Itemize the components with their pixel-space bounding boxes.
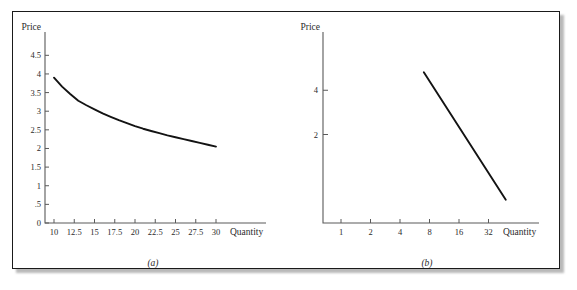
- panel-b-x-tick-label: 32: [484, 227, 493, 237]
- panel-a-plot: 1012.51517.52022.52527.530Quantity0.511.…: [13, 12, 293, 270]
- panel-a-x-tick-label: 25: [171, 227, 180, 237]
- panel-a-demand-curve: [54, 78, 216, 147]
- panel-b-plot: 12481632Quantity24Price: [293, 12, 561, 270]
- panel-a-x-tick-label: 17.5: [107, 227, 122, 237]
- panel-a-y-tick-label: .5: [35, 199, 41, 209]
- panel-a-y-tick-label: 1: [37, 181, 41, 191]
- panel-b-x-axis-title: Quantity: [503, 227, 536, 237]
- panel-b-y-tick-label: 4: [314, 85, 319, 95]
- panel-a-x-tick-label: 27.5: [188, 227, 203, 237]
- figure-root: 1012.51517.52022.52527.530Quantity0.511.…: [0, 0, 577, 290]
- panel-b-x-tick-label: 1: [339, 227, 343, 237]
- panel-a-x-tick-label: 30: [212, 227, 221, 237]
- panel-a-x-tick-label: 22.5: [148, 227, 163, 237]
- panel-b-x-tick-label: 4: [398, 227, 403, 237]
- panel-a-caption: (a): [13, 258, 293, 268]
- panel-b-axes: [323, 32, 539, 223]
- panel-a-x-tick-label: 15: [90, 227, 99, 237]
- panel-a-y-tick-label: 1.5: [30, 162, 41, 172]
- panel-a-y-tick-label: 3: [37, 106, 41, 116]
- panel-b-y-axis-title: Price: [300, 22, 320, 32]
- panel-a-y-tick-label: 0: [37, 218, 41, 228]
- panel-a-y-axis-title: Price: [21, 22, 41, 32]
- figure-frame: 1012.51517.52022.52527.530Quantity0.511.…: [12, 11, 560, 269]
- panel-a-y-tick-label: 2: [37, 143, 41, 153]
- panel-b-x-tick-label: 16: [455, 227, 464, 237]
- panel-b-y-tick-label: 2: [314, 130, 318, 140]
- panel-a-y-tick-label: 2.5: [30, 125, 41, 135]
- panel-a-y-tick-label: 4: [37, 69, 42, 79]
- panel-a-axes: [45, 32, 266, 223]
- panel-a-y-tick-label: 4.5: [30, 50, 41, 60]
- panel-a-y-tick-label: 3.5: [30, 88, 41, 98]
- panel-a: 1012.51517.52022.52527.530Quantity0.511.…: [13, 12, 293, 268]
- panel-b-x-tick-label: 8: [427, 227, 431, 237]
- panel-b-x-tick-label: 2: [368, 227, 372, 237]
- panel-a-x-axis-title: Quantity: [230, 227, 263, 237]
- panel-a-x-tick-label: 10: [50, 227, 59, 237]
- panel-b-caption: (b): [293, 258, 561, 268]
- panel-a-x-tick-label: 20: [131, 227, 140, 237]
- panel-b: 12481632Quantity24Price (b): [293, 12, 561, 268]
- panel-a-x-tick-label: 12.5: [67, 227, 82, 237]
- panel-b-demand-curve: [424, 72, 506, 199]
